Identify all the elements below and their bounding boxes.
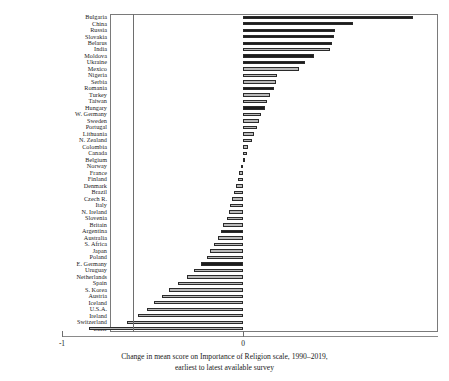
x-tick-mark [62, 331, 63, 337]
religion-change-bar-chart: BulgariaChinaRussiaSlovakiaBelarusIndiaM… [0, 0, 449, 381]
x-tick-mark [243, 331, 244, 337]
bar [147, 308, 243, 311]
bar [243, 54, 314, 57]
bar [243, 145, 248, 148]
bar [232, 197, 243, 200]
bar [243, 16, 413, 19]
bar [178, 282, 243, 285]
bar [201, 262, 243, 265]
bar [169, 288, 243, 291]
bar [236, 184, 243, 187]
bar [243, 158, 245, 161]
bars-layer [110, 14, 438, 332]
bar [214, 243, 243, 246]
bar [243, 132, 254, 135]
x-tick-label: -1 [50, 339, 74, 348]
bar [229, 210, 243, 213]
country-label: Denmark [0, 183, 107, 189]
bar [243, 42, 332, 45]
bar [243, 22, 353, 25]
bar [221, 230, 243, 233]
bar [243, 126, 257, 129]
country-label: Switzerland [0, 319, 107, 325]
x-axis-line [62, 336, 438, 337]
bar [227, 217, 243, 220]
bar [138, 314, 243, 317]
bar [207, 256, 243, 259]
bar [243, 113, 261, 116]
bar [243, 67, 299, 70]
bar [243, 29, 335, 32]
bar [243, 93, 270, 96]
bar [243, 80, 276, 83]
bar [243, 139, 252, 142]
country-label: Belarus [0, 40, 107, 46]
bar [194, 269, 243, 272]
country-label: Czech R. [0, 196, 107, 202]
bar [239, 171, 243, 174]
bar [243, 119, 259, 122]
bar [223, 223, 243, 226]
bar [89, 327, 243, 330]
x-tick-label: 0 [231, 339, 255, 348]
bar [243, 74, 277, 77]
bar [230, 204, 243, 207]
bar [127, 321, 243, 324]
chart-caption: Change in mean score on Importance of Re… [0, 352, 449, 373]
bar [241, 165, 243, 168]
bar [243, 152, 247, 155]
bar [218, 236, 243, 239]
bar [234, 191, 243, 194]
bar [243, 106, 265, 109]
country-label: Bulgaria [0, 14, 107, 20]
bar [210, 249, 243, 252]
bar [154, 301, 243, 304]
caption-line-1: Change in mean score on Importance of Re… [0, 352, 449, 363]
bar [238, 178, 243, 181]
bar [187, 275, 243, 278]
bar [243, 87, 274, 90]
country-label-axis: BulgariaChinaRussiaSlovakiaBelarusIndiaM… [0, 14, 107, 332]
bar [162, 295, 243, 298]
bar [243, 100, 267, 103]
caption-line-2: earliest to latest available survey [0, 363, 449, 374]
bar [243, 35, 334, 38]
country-label: Netherlands [0, 274, 107, 280]
bar [243, 61, 305, 64]
bar [243, 48, 330, 51]
zero-reference-line [133, 14, 134, 332]
country-label: S. Africa [0, 241, 107, 247]
